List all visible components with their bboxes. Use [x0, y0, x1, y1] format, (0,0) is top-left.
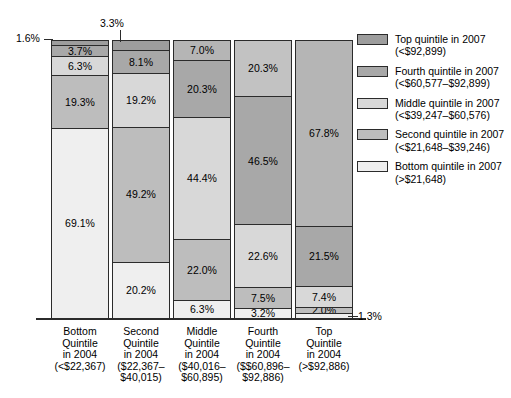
chart-legend: Top quintile in 2007(<$92,899)Fourth qui… — [357, 33, 511, 192]
legend-label: Second quintile in 2007(<$21,648–$39,246… — [395, 128, 504, 153]
segment-value-label: 20.2% — [126, 285, 156, 296]
legend-swatch-icon — [357, 129, 388, 140]
legend-bottom-quintile[interactable]: Bottom quintile in 2007(>$21,648) — [357, 160, 511, 185]
callout-1-3-leader — [348, 316, 358, 317]
legend-swatch-icon — [357, 34, 388, 45]
callout-1-6-leader — [44, 39, 53, 40]
segment-value-label: 6.3% — [68, 61, 92, 72]
bar-segment[interactable]: 7.5% — [235, 288, 291, 309]
bar-middle-quintile-2004[interactable]: 7.0%20.3%44.4%22.0%6.3% — [173, 40, 231, 318]
bar-segment[interactable]: 19.2% — [113, 74, 169, 127]
bar-segment[interactable]: 20.2% — [113, 263, 169, 318]
x-axis-label-5: TopQuintilein 2004(>$92,886) — [286, 326, 362, 372]
legend-middle-quintile[interactable]: Middle quintile in 2007(<$39,247–$60,576… — [357, 97, 511, 122]
callout-3-3-leader — [120, 30, 121, 42]
legend-label: Fourth quintile in 2007(<$60,577–$92,899… — [395, 65, 499, 90]
legend-label-line2: (<$39,247–$60,576) — [395, 109, 500, 121]
bar-segment[interactable]: 67.8% — [296, 41, 352, 227]
legend-label-line1: Fourth quintile in 2007 — [395, 65, 499, 77]
legend-label: Middle quintile in 2007(<$39,247–$60,576… — [395, 97, 500, 122]
segment-value-label: 49.2% — [126, 189, 156, 200]
legend-second-quintile[interactable]: Second quintile in 2007(<$21,648–$39,246… — [357, 128, 511, 153]
stacked-bar-chart: 3.7%6.3%19.3%69.1%8.1%19.2%49.2%20.2%7.0… — [0, 0, 511, 398]
legend-fourth-quintile[interactable]: Fourth quintile in 2007(<$60,577–$92,899… — [357, 65, 511, 90]
segment-value-label: 44.4% — [187, 173, 217, 184]
x-axis-label-line: Top — [286, 326, 362, 338]
legend-label-line1: Top quintile in 2007 — [395, 33, 486, 45]
bar-segment[interactable]: 20.3% — [174, 61, 230, 117]
bar-segment[interactable]: 22.6% — [235, 225, 291, 288]
legend-swatch-icon — [357, 66, 388, 77]
bar-segment[interactable]: 3.7% — [52, 46, 108, 57]
segment-value-label: 20.3% — [248, 63, 278, 74]
bar-segment[interactable]: 22.0% — [174, 240, 230, 301]
bar-segment[interactable]: 7.0% — [174, 41, 230, 61]
segment-value-label: 22.0% — [187, 265, 217, 276]
bar-bottom-quintile-2004[interactable]: 3.7%6.3%19.3%69.1% — [51, 40, 109, 318]
bar-segment[interactable]: 44.4% — [174, 118, 230, 240]
callout-3-3-label: 3.3% — [100, 18, 124, 29]
legend-label-line2: (<$21,648–$39,246) — [395, 141, 504, 153]
segment-value-label: 69.1% — [65, 218, 95, 229]
bar-segment[interactable]: 69.1% — [52, 129, 108, 318]
x-axis-line — [36, 318, 366, 320]
segment-value-label: 19.2% — [126, 95, 156, 106]
x-axis-labels: BottomQuintilein 2004(<$22,367)SecondQui… — [0, 326, 370, 398]
legend-label: Bottom quintile in 2007(>$21,648) — [395, 160, 502, 185]
segment-value-label: 67.8% — [309, 128, 339, 139]
bar-segment[interactable]: 49.2% — [113, 128, 169, 263]
legend-label-line1: Bottom quintile in 2007 — [395, 160, 502, 172]
segment-value-label: 3.7% — [68, 46, 92, 56]
legend-label: Top quintile in 2007(<$92,899) — [395, 33, 486, 58]
callout-1-3-label: 1.3% — [358, 311, 382, 322]
legend-label-line2: (<$92,899) — [395, 45, 486, 57]
legend-top-quintile[interactable]: Top quintile in 2007(<$92,899) — [357, 33, 511, 58]
bar-segment[interactable]: 19.3% — [52, 76, 108, 130]
segment-value-label: 7.4% — [312, 292, 336, 303]
x-axis-label-line: $92,886) — [225, 372, 301, 384]
segment-value-label: 7.0% — [190, 45, 214, 56]
segment-value-label: 8.1% — [129, 57, 153, 68]
bar-segment[interactable]: 20.3% — [235, 41, 291, 97]
bar-top-quintile-2004[interactable]: 67.8%21.5%7.4%2.0% — [295, 40, 353, 318]
segment-value-label: 6.3% — [190, 304, 214, 315]
segment-value-label: 20.3% — [187, 84, 217, 95]
x-axis-label-line: (>$92,886) — [286, 361, 362, 373]
bar-fourth-quintile-2004[interactable]: 20.3%46.5%22.6%7.5%3.2% — [234, 40, 292, 318]
callout-1-6-label: 1.6% — [16, 33, 40, 44]
legend-label-line2: (>$21,648) — [395, 173, 502, 185]
legend-swatch-icon — [357, 161, 388, 172]
segment-value-label: 19.3% — [65, 97, 95, 108]
bar-segment[interactable]: 46.5% — [235, 97, 291, 225]
segment-value-label: 7.5% — [251, 293, 275, 304]
segment-value-label: 21.5% — [309, 251, 339, 262]
bar-segment[interactable]: 6.3% — [174, 301, 230, 318]
segment-value-label: 46.5% — [248, 156, 278, 167]
bar-segment[interactable]: 3.2% — [235, 309, 291, 318]
bar-second-quintile-2004[interactable]: 8.1%19.2%49.2%20.2% — [112, 40, 170, 318]
legend-label-line2: (<$60,577–$92,899) — [395, 77, 499, 89]
bar-segment[interactable]: 21.5% — [296, 227, 352, 287]
segment-value-label: 3.2% — [251, 309, 275, 318]
bar-segment[interactable]: 6.3% — [52, 57, 108, 75]
legend-label-line1: Second quintile in 2007 — [395, 128, 504, 140]
legend-swatch-icon — [357, 98, 388, 109]
bar-segment[interactable]: 8.1% — [113, 51, 169, 74]
bar-segment[interactable] — [113, 41, 169, 51]
bar-segment[interactable]: 7.4% — [296, 287, 352, 308]
segment-value-label: 22.6% — [248, 251, 278, 262]
legend-label-line1: Middle quintile in 2007 — [395, 97, 500, 109]
